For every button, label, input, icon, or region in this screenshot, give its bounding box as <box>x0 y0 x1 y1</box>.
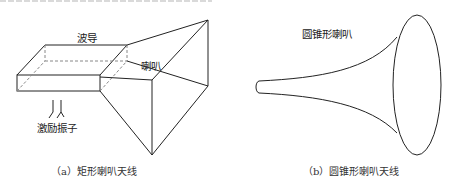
caption-a: （a）矩形喇叭天线 <box>51 167 137 177</box>
label-exciter: 激励振子 <box>37 123 77 134</box>
horn-flare-bottom <box>259 93 397 133</box>
horn-flare-top <box>259 37 397 81</box>
label-conical-horn: 圆锥形喇叭 <box>302 29 352 40</box>
waveguide-front-face <box>17 75 100 91</box>
rectangular-horn-figure <box>17 20 208 155</box>
label-horn: 喇叭 <box>141 61 161 72</box>
exciter-dipole-icon <box>49 100 64 118</box>
horn-throat <box>256 81 259 93</box>
horn-aperture <box>393 15 441 155</box>
caption-b: （b）圆锥形喇叭天线 <box>303 167 399 177</box>
antenna-diagrams <box>0 0 450 186</box>
label-waveguide: 波导 <box>77 33 97 44</box>
